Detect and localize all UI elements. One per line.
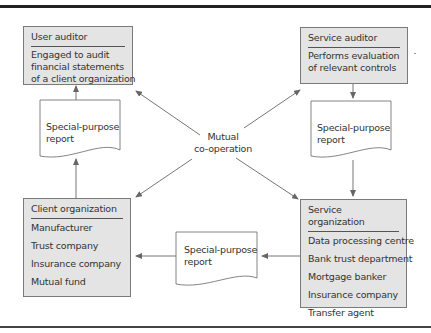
client-organization-title: Client organization xyxy=(31,203,123,219)
service-organization-item: Data processing centre xyxy=(308,232,399,250)
center-label-line: Mutual xyxy=(188,131,258,143)
report-bottom-line: report xyxy=(184,256,257,268)
service-organization-box: Service organization Data processing cen… xyxy=(300,199,407,308)
service-auditor-box: Service auditor Performs evaluation of r… xyxy=(300,27,408,84)
service-organization-item: Transfer agent xyxy=(308,304,399,322)
user-auditor-line: of a client organization xyxy=(31,73,125,85)
user-auditor-box: User auditor Engaged to audit financial … xyxy=(23,26,133,85)
service-organization-item: Insurance company xyxy=(308,286,399,304)
service-organization-item: Bank trust department xyxy=(308,250,399,268)
user-auditor-line: Engaged to audit xyxy=(31,49,125,61)
report-bottom-text: Special-purpose report xyxy=(184,244,257,268)
service-auditor-line: of relevant controls xyxy=(308,62,400,74)
user-auditor-line: financial statements xyxy=(31,61,125,73)
user-auditor-title: User auditor xyxy=(31,31,125,47)
report-left-line: report xyxy=(46,133,119,145)
report-bottom-line: Special-purpose xyxy=(184,244,257,256)
report-right-line: report xyxy=(317,134,390,146)
client-organization-item: Mutual fund xyxy=(31,273,123,291)
client-organization-box: Client organization Manufacturer Trust c… xyxy=(23,198,131,297)
service-auditor-title: Service auditor xyxy=(308,32,400,48)
client-organization-item: Manufacturer xyxy=(31,219,123,237)
report-right-text: Special-purpose report xyxy=(317,122,390,146)
service-organization-title: Service organization xyxy=(308,204,399,232)
stray-dot xyxy=(414,53,416,54)
client-organization-item: Trust company xyxy=(31,237,123,255)
client-organization-item: Insurance company xyxy=(31,255,123,273)
center-label-line: co-operation xyxy=(188,143,258,155)
service-organization-item: Mortgage banker xyxy=(308,268,399,286)
mutual-cooperation-label: Mutual co-operation xyxy=(188,131,258,155)
service-auditor-line: Performs evaluation xyxy=(308,50,400,62)
report-left-line: Special-purpose xyxy=(46,121,119,133)
report-right-line: Special-purpose xyxy=(317,122,390,134)
report-left-text: Special-purpose report xyxy=(46,121,119,145)
